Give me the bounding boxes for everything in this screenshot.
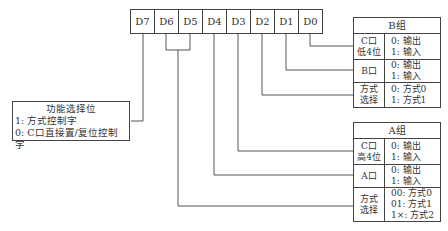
group-a-row-port-c-high: C口高4位 0: 输出1: 输入 — [354, 139, 440, 165]
function-select-line: 1: 方式控制字 — [15, 115, 127, 127]
line-d6-d5 — [178, 50, 353, 206]
row-label: 低4位 — [354, 47, 384, 58]
group-a-row-mode: 方式选择 00: 方式001: 方式11×: 方式2 — [354, 188, 440, 221]
row-value: 1: 输入 — [391, 71, 440, 82]
bit-d6: D6 — [154, 9, 179, 34]
function-select-line: 0: C口直接置/复位控制字 — [15, 127, 127, 151]
row-label: 方式 — [354, 84, 384, 95]
row-value: 1: 输入 — [391, 47, 440, 58]
line-d3 — [238, 33, 353, 151]
line-d7 — [131, 33, 143, 121]
bit-d5: D5 — [178, 9, 203, 34]
group-b-row-port-b: B口 0: 输出1: 输入 — [354, 60, 440, 83]
row-label: 选择 — [354, 95, 384, 106]
control-word-bits: D7 D6 D5 D4 D3 D2 D1 D0 — [131, 9, 323, 34]
group-a-row-port-a: A口 0: 输出1: 输入 — [354, 165, 440, 188]
bit-d1: D1 — [274, 9, 299, 34]
function-select-title: 功能选择位 — [15, 103, 127, 115]
row-label: 方式 — [354, 194, 384, 205]
row-value: 1: 方式1 — [391, 95, 440, 106]
bit-d3: D3 — [226, 9, 251, 34]
bit-d2: D2 — [250, 9, 275, 34]
line-d1 — [286, 33, 353, 70]
row-value: 01: 方式1 — [391, 199, 440, 210]
row-value: 00: 方式0 — [391, 188, 440, 199]
group-a-table: A组 C口高4位 0: 输出1: 输入 A口 0: 输出1: 输入 方式选择 0… — [353, 122, 441, 222]
row-value: 0: 输出 — [391, 60, 440, 71]
row-value: 1×: 方式2 — [391, 210, 440, 221]
row-value: 0: 输出 — [391, 165, 440, 176]
row-label: 选择 — [354, 205, 384, 216]
row-label: A口 — [354, 171, 384, 182]
row-value: 0: 输出 — [391, 36, 440, 47]
line-d4 — [214, 33, 353, 175]
line-d0 — [310, 33, 353, 46]
group-a-title: A组 — [354, 123, 440, 139]
row-label: C口 — [354, 36, 384, 47]
bit-d7: D7 — [130, 9, 155, 34]
bracket-d6-d5 — [166, 33, 190, 50]
bit-d4: D4 — [202, 9, 227, 34]
row-value: 0: 方式0 — [391, 84, 440, 95]
row-value: 0: 输出 — [391, 141, 440, 152]
group-b-table: B组 C口低4位 0: 输出1: 输入 B口 0: 输出1: 输入 方式选择 0… — [353, 17, 441, 108]
group-b-row-mode: 方式选择 0: 方式01: 方式1 — [354, 83, 440, 107]
line-d2 — [262, 33, 353, 95]
group-b-title: B组 — [354, 18, 440, 34]
function-select-box: 功能选择位 1: 方式控制字 0: C口直接置/复位控制字 — [12, 101, 130, 141]
row-label: B口 — [354, 66, 384, 77]
group-b-row-port-c-low: C口低4位 0: 输出1: 输入 — [354, 34, 440, 60]
row-label: C口 — [354, 141, 384, 152]
row-value: 1: 输入 — [391, 152, 440, 163]
row-label: 高4位 — [354, 152, 384, 163]
bit-d0: D0 — [298, 9, 323, 34]
row-value: 1: 输入 — [391, 176, 440, 187]
